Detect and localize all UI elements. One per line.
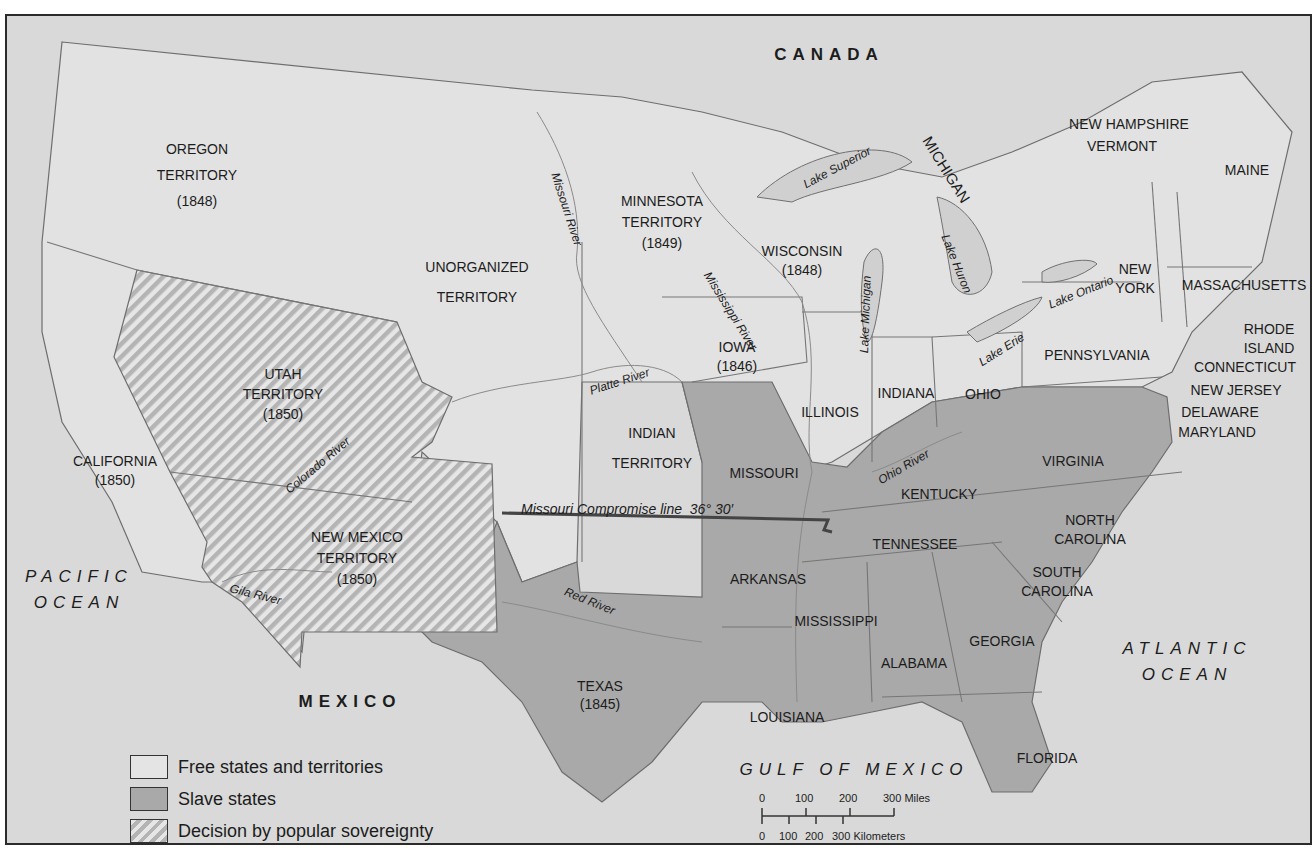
slave-swatch-icon [130,787,168,811]
label-alabama: ALABAMA [881,655,947,672]
label-new-hampshire: NEW HAMPSHIRE [1069,116,1189,133]
label-texas: TEXAS(1845) [577,677,623,713]
label-ohio: OHIO [965,386,1001,403]
label-new-mexico-territory: NEW MEXICOTERRITORY(1850) [311,527,403,590]
popular-sovereignty-swatch-icon [130,819,168,843]
label-delaware: DELAWARE [1181,404,1259,421]
label-virginia: VIRGINIA [1042,453,1103,470]
label-louisiana: LOUISIANA [750,709,825,726]
label-gulf-of-mexico: GULF OF MEXICO [740,757,969,783]
label-pennsylvania: PENNSYLVANIA [1044,347,1149,364]
label-kentucky: KENTUCKY [901,486,977,503]
map-legend: Free states and territories Slave states… [130,751,433,845]
label-mexico: MEXICO [298,693,401,710]
label-massachusetts: MASSACHUSETTS [1182,277,1306,294]
label-missouri: MISSOURI [729,465,798,482]
label-oregon-territory: OREGONTERRITORY(1848) [157,136,237,214]
label-florida: FLORIDA [1017,750,1078,767]
legend-item-popular-sovereignty: Decision by popular sovereignty [130,815,433,845]
legend-item-free: Free states and territories [130,751,433,783]
label-north-carolina: NORTHCAROLINA [1054,511,1126,549]
label-illinois: ILLINOIS [801,404,859,421]
label-south-carolina: SOUTHCAROLINA [1021,563,1093,601]
label-utah-territory: UTAHTERRITORY(1850) [243,364,323,424]
label-connecticut: CONNECTICUT [1194,359,1296,376]
scale-bar: 0 100 200 300 Miles 0 100 200 300 Kilome… [759,792,999,845]
map-frame: CANADA MEXICO PACIFICOCEAN ATLANTICOCEAN… [5,14,1312,845]
label-maryland: MARYLAND [1178,424,1256,441]
label-wisconsin: WISCONSIN(1848) [762,242,843,280]
label-pacific-ocean: PACIFICOCEAN [25,564,133,616]
label-new-york: NEWYORK [1115,260,1155,298]
label-atlantic-ocean: ATLANTICOCEAN [1123,636,1252,688]
label-georgia: GEORGIA [969,633,1034,650]
label-maine: MAINE [1225,162,1269,179]
label-indian-territory: INDIANTERRITORY [612,418,692,478]
label-tennessee: TENNESSEE [873,536,958,553]
legend-item-slave: Slave states [130,783,433,815]
label-canada: CANADA [774,46,884,63]
label-arkansas: ARKANSAS [730,571,806,588]
label-unorganized-territory: UNORGANIZEDTERRITORY [425,252,528,312]
label-california: CALIFORNIA(1850) [73,452,157,490]
scale-ruler-icon [759,806,919,828]
label-rhode-island: RHODEISLAND [1244,320,1295,358]
label-vermont: VERMONT [1087,138,1157,155]
label-new-jersey: NEW JERSEY [1190,382,1281,399]
label-indiana: INDIANA [878,385,935,402]
label-lake-michigan: Lake Michigan [857,275,874,353]
free-swatch-icon [130,755,168,779]
label-mississippi: MISSISSIPPI [794,613,877,630]
label-compromise-line: Missouri Compromise line 36° 30′ [521,501,733,517]
label-minnesota-territory: MINNESOTATERRITORY(1849) [621,191,703,254]
